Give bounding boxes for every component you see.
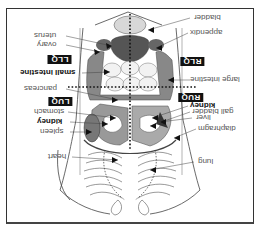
badge-luq: LUQ [48, 97, 72, 106]
label-heart: heart [48, 152, 66, 161]
label-bladder: bladder [194, 13, 221, 22]
label-lung: lung [198, 157, 213, 166]
label-stomach: stomach [34, 107, 64, 116]
badge-rlq: RLQ [180, 57, 204, 66]
label-liver: liver [196, 113, 211, 122]
label-pancreas: pancreas [24, 84, 57, 93]
label-small-intestine: small intestine [20, 68, 76, 77]
label-ovary: ovary [37, 40, 57, 49]
label-appendix: appendix [190, 28, 222, 37]
label-kidney-left: kidney [37, 117, 62, 126]
badge-llq: LLQ [48, 55, 72, 64]
label-large-intestine: large intestine [190, 75, 240, 84]
anatomy-diagram: uterus ovary LLQ small intestine pancrea… [0, 0, 259, 235]
spleen-shape [84, 114, 100, 142]
label-spleen: spleen [40, 127, 64, 136]
diaphragm-shape [84, 140, 176, 154]
label-diaphragm: diaphragm [198, 124, 236, 133]
rib-cage [84, 152, 176, 215]
label-uterus: uterus [34, 31, 56, 40]
